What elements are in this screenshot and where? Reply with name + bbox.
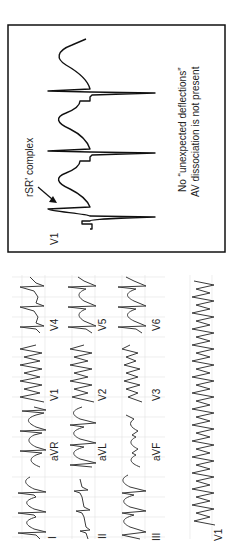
rsr-annotation: rSR' complex bbox=[24, 138, 35, 197]
lead-V3-trace bbox=[122, 345, 142, 402]
rhythm-strip-V1-trace bbox=[192, 281, 215, 525]
lead-V4-trace bbox=[20, 277, 44, 333]
lead-V2-trace bbox=[70, 345, 94, 402]
lead-label-V1: V1 bbox=[49, 388, 60, 401]
lead-III-trace bbox=[122, 475, 146, 539]
lead-aVF-trace bbox=[126, 415, 140, 467]
lead-label-rhythm-V1: V1 bbox=[213, 528, 224, 541]
lead-label-V2: V2 bbox=[97, 388, 108, 401]
lead-V1-trace bbox=[20, 345, 44, 402]
ecg-figure: I aVR V1 V4 II aVL V2 V5 III aVF V3 bbox=[0, 0, 236, 547]
note-line-1: No “unexpected deflections” bbox=[177, 67, 188, 192]
lead-label-V4: V4 bbox=[49, 318, 60, 331]
lead-label-aVF: aVF bbox=[151, 443, 162, 461]
lead-label-V6: V6 bbox=[151, 318, 162, 331]
lead-label-V5: V5 bbox=[97, 318, 108, 331]
inset-lead-label: V1 bbox=[49, 232, 60, 245]
ecg-svg: I aVR V1 V4 II aVL V2 V5 III aVF V3 bbox=[0, 0, 236, 547]
note-line-2: AV dissociation is not present bbox=[190, 66, 201, 197]
lead-label-V3: V3 bbox=[151, 388, 162, 401]
lead-label-I: I bbox=[47, 536, 58, 539]
lead-label-aVL: aVL bbox=[97, 443, 108, 461]
twelve-lead-panel: I aVR V1 V4 II aVL V2 V5 III aVF V3 bbox=[12, 275, 224, 541]
v1-inset-panel: V1 rSR' complex No “unexpected deflectio… bbox=[8, 25, 225, 252]
lead-label-aVR: aVR bbox=[49, 442, 60, 461]
lead-label-III: III bbox=[151, 533, 162, 541]
lead-II-trace bbox=[74, 479, 90, 539]
lead-label-II: II bbox=[97, 533, 108, 539]
ecg-grid bbox=[12, 275, 212, 539]
